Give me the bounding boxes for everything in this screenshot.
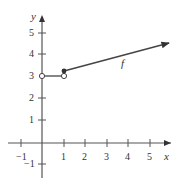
y-axis-label: y xyxy=(30,10,36,22)
closed-dot-icon xyxy=(62,69,67,74)
segment-ray xyxy=(64,43,169,71)
y-tick-label: 5 xyxy=(29,27,34,38)
y-tick-label: 2 xyxy=(29,92,34,103)
function-label: f xyxy=(121,57,126,69)
y-axis-arrow-icon xyxy=(39,15,45,22)
y-tick-label: 4 xyxy=(29,48,34,59)
y-tick-label: 3 xyxy=(29,70,34,81)
x-axis-label: x xyxy=(163,150,169,162)
x-axis-arrow-icon xyxy=(164,140,171,146)
x-tick-label: 3 xyxy=(104,151,109,162)
x-tick-label: 4 xyxy=(125,151,130,162)
x-tick-label: 5 xyxy=(147,151,152,162)
y-tick-label: 1 xyxy=(29,114,34,125)
open-dot-icon xyxy=(39,73,44,78)
y-tick-label: −1 xyxy=(24,158,35,169)
x-tick-label: 1 xyxy=(61,151,66,162)
open-dot-icon xyxy=(61,73,66,78)
x-tick-label: 2 xyxy=(82,151,87,162)
chart: −1 1 2 3 4 5 x 5 4 3 2 1 −1 y f xyxy=(0,0,180,182)
